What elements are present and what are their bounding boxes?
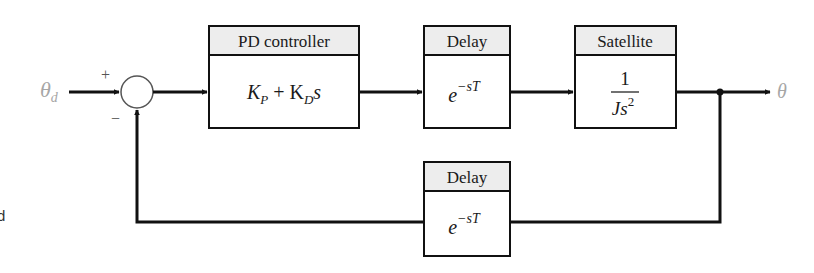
summing-junction [121,76,153,108]
pd-controller-block: PD controller KP + KDs [209,26,359,128]
pd-title: PD controller [238,32,330,51]
input-signal-label: θd [40,77,59,105]
delay-title-forward: Delay [447,32,488,51]
edge-text-fragment: d [0,207,5,224]
minus-sign: − [111,110,120,127]
block-diagram: θd + − PD controller KP + KDs Delay e−sT… [0,0,814,273]
delay-block-feedback: Delay e−sT [424,162,510,256]
satellite-numerator: 1 [620,68,630,89]
satellite-block: Satellite 1 Js2 [575,26,676,128]
delay-title-feedback: Delay [447,168,488,187]
delay-block-forward: Delay e−sT [424,26,510,128]
output-signal-label: θ [777,80,787,102]
satellite-title: Satellite [597,32,653,51]
plus-sign: + [101,66,110,83]
